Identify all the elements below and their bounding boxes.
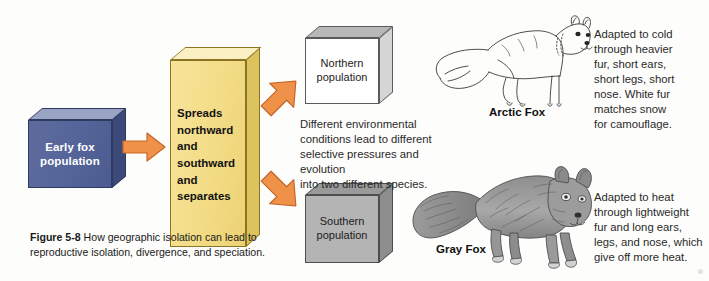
page-speck [698,269,703,274]
box-front-face: Southern population [305,195,379,263]
figure-number: Figure 5-8 [30,231,81,243]
spreads-and-separates-label: Spreads northward and southward and sepa… [171,105,245,205]
arrow-right-icon [122,131,166,163]
gray-fox-label: Gray Fox [436,243,486,255]
southern-population-box: Southern population [305,183,393,263]
box-front-face: Northern population [305,38,379,104]
arctic-fox-illustration [432,12,594,110]
early-fox-population-label: Early fox population [29,140,111,169]
box-side-face [379,26,393,104]
gray-fox-description: Adapted to heat through lightweight fur … [594,190,706,265]
box-side-face [379,183,393,263]
arrow-down-right-icon [258,168,304,214]
box-front-face: Spreads northward and southward and sepa… [170,60,246,247]
spreads-and-separates-box: Spreads northward and southward and sepa… [170,47,260,247]
early-fox-population-box: Early fox population [28,108,126,188]
northern-population-label: Northern population [306,57,378,85]
arctic-fox-description: Adapted to cold through heavier fur, sho… [594,27,706,132]
box-front-face: Early fox population [28,120,112,188]
figure-caption: Figure 5-8 How geographic isolation can … [30,230,285,259]
figure-5-8-speciation-diagram: Early fox population Spreads northward a… [0,0,709,281]
box-top-face [28,108,126,120]
northern-population-box: Northern population [305,26,393,104]
arrow-up-right-icon [258,73,304,119]
southern-population-label: Southern population [306,215,378,243]
arctic-fox-label: Arctic Fox [489,106,545,118]
gray-fox-illustration [410,163,602,273]
